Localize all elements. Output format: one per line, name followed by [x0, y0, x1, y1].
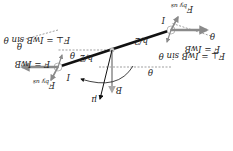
- label-h-half-left: h/2: [134, 36, 148, 46]
- diagram-canvas: h/2 h/2 θ θ θ θ F = IwB F = IwB F⊥ = IwB…: [0, 0, 233, 151]
- label-current-right: I: [66, 72, 71, 82]
- svg-text:by us: by us: [33, 78, 49, 86]
- svg-text:by us: by us: [171, 2, 187, 10]
- label-f-by-us-left: F by us: [171, 2, 194, 14]
- loop-side: [58, 30, 171, 67]
- torque-diagram: h/2 h/2 θ θ θ θ F = IwB F = IwB F⊥ = IwB…: [0, 0, 233, 151]
- label-theta-left-dash: θ: [210, 31, 215, 41]
- label-theta-top-left: θ: [148, 67, 153, 77]
- label-force-right: F = IwB: [15, 59, 51, 69]
- normal-vector-mu: [100, 50, 112, 99]
- label-force-perp-left: F⊥ = IwB sin θ: [159, 51, 226, 61]
- label-force-perp-right: F⊥ = IwB sin θ: [4, 35, 71, 45]
- label-theta-top-right: θ: [70, 50, 75, 60]
- label-field-B: B: [116, 85, 123, 95]
- label-f-by-us-right: F by us: [33, 78, 56, 90]
- label-h-half-right: h/2: [79, 53, 93, 63]
- label-current-left: I: [161, 15, 166, 25]
- label-normal-mu: μ: [91, 95, 97, 105]
